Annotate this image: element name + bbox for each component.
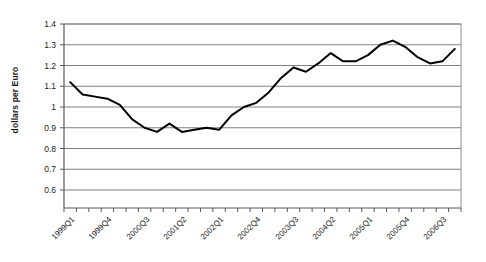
exchange-rate-line-chart: dollars per Euro 1.41.31.21.110.90.80.70… [0,0,486,262]
x-axis-tick-labels: 1999Q11999Q42000Q32001Q22002Q12002Q42003… [0,0,486,262]
